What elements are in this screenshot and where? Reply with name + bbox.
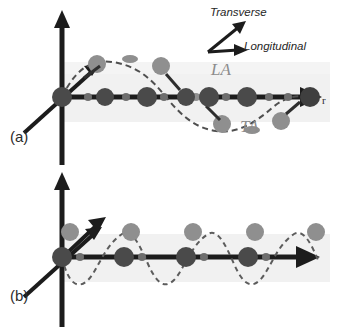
panel-optical: LO TO r (0, 162, 338, 327)
legend-label-transverse: Transverse (210, 6, 267, 18)
axis-label-r-a: r (322, 94, 326, 106)
legend-label-longitudinal: Longitudinal (244, 40, 306, 52)
panel-b-canvas (0, 162, 338, 327)
panel-caption-a: (a) (10, 128, 28, 145)
mode-label-ta: TA (240, 117, 259, 137)
mode-label-la: LA (211, 60, 231, 80)
phonon-modes-figure: LA TA r Transverse Longitudinal (0, 0, 338, 327)
panel-caption-b: (b) (10, 287, 28, 304)
legend: Transverse Longitudinal (196, 6, 338, 62)
